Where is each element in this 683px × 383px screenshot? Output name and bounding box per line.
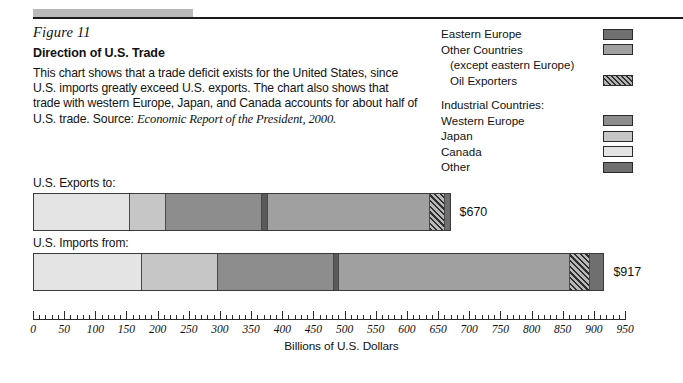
x-axis-minor-tick xyxy=(307,315,308,320)
x-axis-major-tick xyxy=(563,311,564,320)
x-axis-minor-tick xyxy=(114,315,115,320)
x-axis-minor-tick xyxy=(151,315,152,320)
x-axis-major-tick xyxy=(64,311,65,320)
bar-total-imports: $917 xyxy=(613,265,641,279)
stacked-bar-exports xyxy=(33,193,451,231)
x-axis-minor-tick xyxy=(133,315,134,320)
bar-segment-other-countries xyxy=(267,194,429,230)
x-axis-minor-tick xyxy=(338,315,339,320)
x-axis-minor-tick xyxy=(538,315,539,320)
x-axis-minor-tick xyxy=(544,315,545,320)
x-axis-major-tick xyxy=(469,311,470,320)
x-axis-minor-tick xyxy=(581,315,582,320)
x-axis-major-tick xyxy=(376,311,377,320)
bar-segment-japan xyxy=(141,254,217,290)
x-axis-minor-tick xyxy=(588,315,589,320)
x-axis-minor-tick xyxy=(270,315,271,320)
x-axis-tick-label: 500 xyxy=(336,323,353,335)
x-axis-minor-tick xyxy=(183,315,184,320)
x-axis-minor-tick xyxy=(120,315,121,320)
x-axis-minor-tick xyxy=(419,315,420,320)
x-axis-tick-label: 350 xyxy=(242,323,259,335)
bar-segment-japan xyxy=(129,194,165,230)
x-axis-minor-tick xyxy=(288,315,289,320)
x-axis-minor-tick xyxy=(214,315,215,320)
x-axis-minor-tick xyxy=(201,315,202,320)
x-axis-tick-label: 50 xyxy=(58,323,70,335)
x-axis-minor-tick xyxy=(525,315,526,320)
x-axis-tick-label: 0 xyxy=(30,323,36,335)
x-axis-major-tick xyxy=(158,311,159,320)
x-axis-minor-tick xyxy=(207,315,208,320)
x-axis-minor-tick xyxy=(52,315,53,320)
bar-segment-canada xyxy=(34,194,129,230)
x-axis-minor-tick xyxy=(195,315,196,320)
x-axis-minor-tick xyxy=(257,315,258,320)
x-axis-tick-label: 850 xyxy=(554,323,571,335)
x-axis-major-tick xyxy=(220,311,221,320)
x-axis-minor-tick xyxy=(432,315,433,320)
x-axis-minor-tick xyxy=(382,315,383,320)
x-axis-minor-tick xyxy=(619,315,620,320)
x-axis-minor-tick xyxy=(600,315,601,320)
x-axis-minor-tick xyxy=(475,315,476,320)
x-axis-major-tick xyxy=(594,311,595,320)
x-axis-minor-tick xyxy=(332,315,333,320)
x-axis-minor-tick xyxy=(606,315,607,320)
x-axis-minor-tick xyxy=(488,315,489,320)
x-axis-tick-label: 200 xyxy=(149,323,166,335)
x-axis-minor-tick xyxy=(232,315,233,320)
x-axis-tick-label: 100 xyxy=(87,323,104,335)
x-axis-tick-label: 750 xyxy=(492,323,509,335)
x-axis-minor-tick xyxy=(494,315,495,320)
bar-label-imports: U.S. Imports from: xyxy=(33,236,129,250)
stacked-bar-imports xyxy=(33,253,604,291)
x-axis-major-tick xyxy=(189,311,190,320)
x-axis-minor-tick xyxy=(264,315,265,320)
x-axis-minor-tick xyxy=(170,315,171,320)
x-axis-tick-label: 400 xyxy=(274,323,291,335)
x-axis-minor-tick xyxy=(444,315,445,320)
x-axis-minor-tick xyxy=(77,315,78,320)
x-axis-minor-tick xyxy=(463,315,464,320)
x-axis-minor-tick xyxy=(613,315,614,320)
x-axis-tick-label: 800 xyxy=(523,323,540,335)
x-axis-minor-tick xyxy=(226,315,227,320)
x-axis-minor-tick xyxy=(320,315,321,320)
x-axis-minor-tick xyxy=(139,315,140,320)
x-axis-minor-tick xyxy=(58,315,59,320)
x-axis-minor-tick xyxy=(388,315,389,320)
x-axis-major-tick xyxy=(532,311,533,320)
x-axis-tick-label: 300 xyxy=(211,323,228,335)
x-axis-tick-label: 250 xyxy=(180,323,197,335)
x-axis-major-tick xyxy=(500,311,501,320)
x-axis-minor-tick xyxy=(83,315,84,320)
x-axis-major-tick xyxy=(313,311,314,320)
x-axis-minor-tick xyxy=(351,315,352,320)
x-axis-major-tick xyxy=(282,311,283,320)
x-axis-minor-tick xyxy=(39,315,40,320)
x-axis-minor-tick xyxy=(575,315,576,320)
x-axis-minor-tick xyxy=(457,315,458,320)
x-axis-tick-label: 950 xyxy=(616,323,633,335)
x-axis-minor-tick xyxy=(394,315,395,320)
bar-segment-western-europe xyxy=(165,194,261,230)
x-axis-minor-tick xyxy=(239,315,240,320)
bar-segment-other-countries xyxy=(338,254,569,290)
bar-total-exports: $670 xyxy=(460,205,488,219)
x-axis-tick-label: 700 xyxy=(461,323,478,335)
x-axis-major-tick xyxy=(625,311,626,320)
x-axis-title: Billions of U.S. Dollars xyxy=(0,339,683,353)
x-axis-major-tick xyxy=(126,311,127,320)
x-axis-major-tick xyxy=(438,311,439,320)
x-axis-minor-tick xyxy=(550,315,551,320)
x-axis-minor-tick xyxy=(451,315,452,320)
x-axis-minor-tick xyxy=(426,315,427,320)
x-axis-minor-tick xyxy=(569,315,570,320)
x-axis: 0501001502002503003504004505005506006507… xyxy=(33,311,625,312)
x-axis-minor-tick xyxy=(556,315,557,320)
x-axis-tick-label: 650 xyxy=(429,323,446,335)
x-axis-tick-label: 900 xyxy=(585,323,602,335)
x-axis-major-tick xyxy=(33,311,34,320)
x-axis-minor-tick xyxy=(276,315,277,320)
